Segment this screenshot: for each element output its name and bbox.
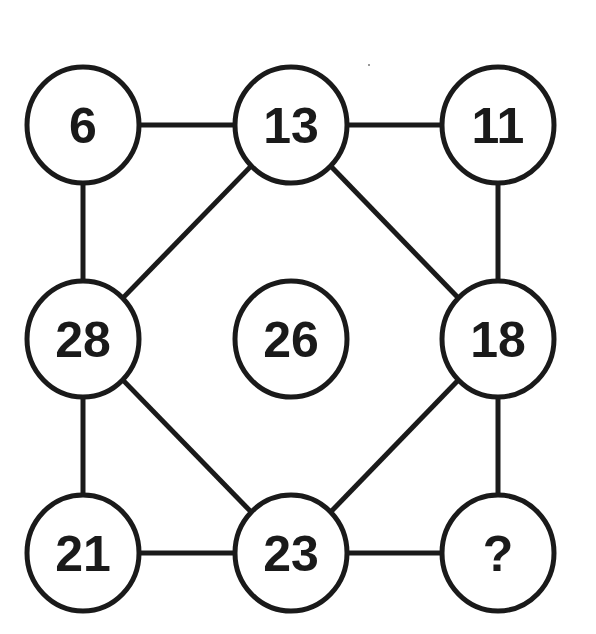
node-middle-left: 28 [27,281,139,397]
node-value-label: 21 [55,526,111,582]
node-value-label: 28 [55,312,111,368]
node-top-left: 6 [27,67,139,183]
missing-value-label: ? [483,526,514,582]
node-value-label: 26 [263,312,319,368]
node-value-label: 6 [69,98,97,154]
node-value-label: 13 [263,98,319,154]
node-bottom-left: 21 [27,495,139,611]
node-bottom-center: 23 [235,495,347,611]
edge-top-center-to-middle-right [331,166,459,298]
number-puzzle-diagram: 613112826182123? [0,0,596,634]
node-middle-right: 18 [442,281,554,397]
edge-middle-left-to-bottom-center [123,380,252,512]
edge-top-center-to-middle-left [123,166,252,298]
node-value-label: 23 [263,526,319,582]
node-top-right: 11 [442,67,554,183]
node-value-label: 18 [470,312,526,368]
node-bottom-right: ? [442,495,554,611]
node-value-label: 11 [472,98,525,154]
edge-middle-right-to-bottom-center [331,380,459,512]
node-center: 26 [235,281,347,397]
number-nodes: 613112826182123? [27,67,554,611]
node-top-center: 13 [235,67,347,183]
scan-speck [368,64,370,66]
